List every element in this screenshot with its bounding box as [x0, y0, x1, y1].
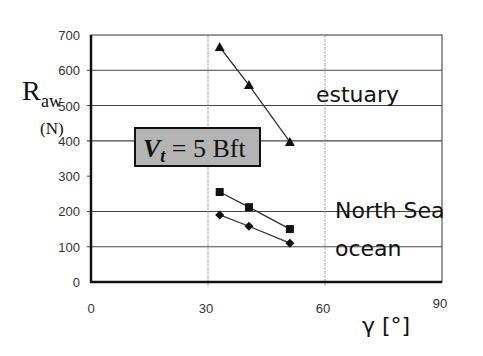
triangle-marker [215, 42, 225, 51]
x-tick-label: 60 [316, 301, 330, 316]
svg-text:Vt = 5 Bft: Vt = 5 Bft [143, 134, 247, 166]
x-tick-label: 90 [433, 296, 447, 311]
y-tick-label: 700 [58, 28, 80, 43]
y-tick-label: 600 [58, 63, 80, 78]
x-tick-label: 0 [87, 301, 94, 316]
diamond-marker [244, 222, 253, 231]
triangle-marker [285, 137, 295, 146]
y-tick-label: 0 [73, 275, 80, 290]
svg-text:aw: aw [41, 91, 62, 111]
series-label-estuary: estuary [316, 82, 399, 107]
annotation-box: Vt = 5 Bft [135, 128, 260, 166]
series-ocean [215, 210, 294, 247]
y-tick-label: 200 [58, 204, 80, 219]
x-tick-label: 30 [199, 301, 213, 316]
svg-text:R: R [22, 75, 41, 106]
y-tick-label: 100 [58, 240, 80, 255]
square-marker [216, 188, 224, 196]
y-tick-labels: 0100200300400500600700 [58, 28, 80, 290]
series-north-sea [216, 188, 294, 233]
y-tick-label: 300 [58, 169, 80, 184]
x-axis-label: γ [°] [362, 313, 410, 338]
series-label-ocean: ocean [335, 236, 402, 261]
square-marker [245, 203, 253, 211]
y-axis-unit: (N) [40, 119, 64, 138]
y-axis-label: R aw (N) [22, 75, 64, 138]
series-label-north-sea: North Sea [335, 198, 445, 223]
square-marker [286, 225, 294, 233]
